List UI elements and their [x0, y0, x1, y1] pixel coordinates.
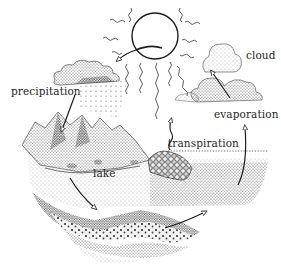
label-lake: lake — [93, 168, 116, 179]
sun-to-cloud-arrow — [118, 50, 136, 60]
water-cycle-diagram: cloud precipitation evaporation transpir… — [0, 0, 281, 266]
label-precipitation: precipitation — [11, 86, 81, 97]
rain-cloud — [54, 60, 120, 85]
rain — [78, 80, 128, 118]
label-evaporation: evaporation — [214, 109, 279, 120]
label-transpiration: transpiration — [168, 138, 239, 149]
sun — [132, 13, 178, 59]
label-cloud: cloud — [246, 50, 276, 61]
